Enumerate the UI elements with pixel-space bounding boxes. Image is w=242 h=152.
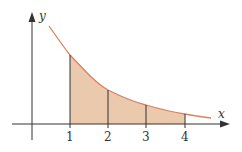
tick-label-1: 1 [66, 131, 74, 143]
tick-label-3: 3 [142, 131, 150, 143]
tick-label-4: 4 [181, 131, 189, 143]
x-axis-arrow-icon [220, 121, 230, 128]
x-axis-label: x [218, 108, 225, 120]
y-axis-arrow-icon [29, 12, 36, 22]
shaded-area [70, 55, 185, 124]
diagram: y x 1 2 3 4 [0, 0, 242, 152]
y-axis-label: y [39, 10, 46, 22]
tick-label-2: 2 [104, 131, 112, 143]
plot [0, 0, 242, 152]
